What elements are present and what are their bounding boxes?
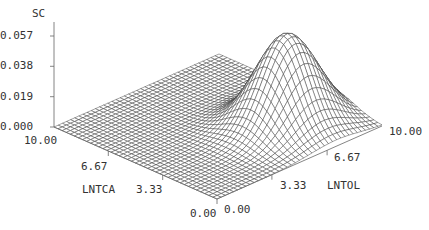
lntol-tick-label: 6.67 <box>334 152 361 164</box>
lntca-axis-title: LNTCA <box>82 184 115 196</box>
lntca-tick-label: 3.33 <box>136 184 163 196</box>
lntca-tick-label: 6.67 <box>81 161 108 173</box>
lntol-axis-title: LNTOL <box>327 180 360 192</box>
surface-mesh <box>0 0 429 230</box>
surface-plot: SC 0.057 0.038 0.019 0.000 10.00 6.67 LN… <box>0 0 429 230</box>
z-tick-label: 0.000 <box>0 121 33 133</box>
lntca-tick-label: 0.00 <box>190 208 217 220</box>
mesh-lines <box>54 33 382 199</box>
lntca-tick-label: 10.00 <box>24 135 57 147</box>
lntol-tick-label: 10.00 <box>389 126 422 138</box>
lntol-tick-label: 3.33 <box>280 180 307 192</box>
lntol-tick-label: 0.00 <box>224 204 251 216</box>
z-tick-label: 0.019 <box>0 91 33 103</box>
z-tick-label: 0.057 <box>0 30 33 42</box>
z-axis-title: SC <box>32 8 45 20</box>
z-tick-label: 0.038 <box>0 60 33 72</box>
